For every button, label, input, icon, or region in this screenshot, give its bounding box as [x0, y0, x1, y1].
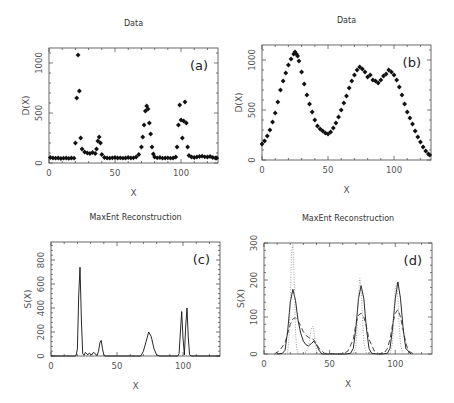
- x-tick-label: 50: [324, 359, 335, 369]
- series-reconstruction: [51, 267, 220, 356]
- y-tick-label: 100: [249, 309, 259, 325]
- y-axis-label: S(X): [23, 290, 33, 309]
- y-tick-label: 0: [36, 353, 46, 358]
- x-tick-label: 50: [110, 168, 121, 178]
- y-tick-label: 400: [36, 300, 46, 316]
- panel-c: MaxEnt Reconstruction0501000200400600800…: [23, 213, 220, 391]
- panel-d: MaxEnt Reconstruction0501000100200300XS(…: [236, 214, 432, 389]
- x-axis-label: X: [132, 381, 138, 391]
- y-tick-label: 1000: [247, 49, 257, 71]
- chart-title: Data: [337, 16, 356, 25]
- y-tick-label: 500: [247, 102, 257, 118]
- y-axis-label: D(X): [21, 95, 31, 115]
- figure: Data05010005001000XD(X)(a)Data0501000500…: [0, 0, 454, 403]
- y-tick-label: 800: [36, 252, 46, 268]
- x-tick-label: 0: [48, 361, 53, 371]
- y-tick-label: 0: [249, 351, 259, 356]
- panel-a: Data05010005001000XD(X)(a): [21, 19, 219, 198]
- y-tick-label: 200: [36, 324, 46, 340]
- x-tick-label: 100: [175, 361, 191, 371]
- panel-label: (d): [404, 253, 422, 268]
- panel-b: Data05010005001000XD(X)(b): [234, 16, 432, 195]
- x-axis-label: X: [343, 185, 349, 195]
- y-tick-label: 1000: [34, 52, 44, 74]
- y-tick-label: 0: [247, 157, 257, 162]
- x-tick-label: 0: [261, 359, 266, 369]
- series-solid: [277, 282, 411, 354]
- y-axis-label: D(X): [234, 92, 244, 112]
- chart-title: MaxEnt Reconstruction: [89, 213, 181, 222]
- chart-title: Data: [124, 19, 143, 28]
- chart-title: MaxEnt Reconstruction: [302, 214, 394, 223]
- x-tick-label: 100: [173, 168, 189, 178]
- y-tick-label: 200: [249, 272, 259, 288]
- x-axis-label: X: [130, 188, 136, 198]
- x-tick-label: 50: [323, 165, 334, 175]
- x-tick-label: 0: [46, 168, 51, 178]
- x-tick-label: 50: [112, 361, 123, 371]
- x-tick-label: 100: [387, 359, 403, 369]
- panel-label: (a): [190, 58, 208, 73]
- y-tick-label: 500: [34, 105, 44, 121]
- y-axis-label: S(X): [236, 289, 246, 308]
- panel-label: (b): [403, 55, 421, 70]
- panel-label: (c): [193, 252, 210, 267]
- y-tick-label: 600: [36, 276, 46, 292]
- x-axis-label: X: [345, 379, 351, 389]
- y-tick-label: 0: [34, 160, 44, 165]
- x-tick-label: 100: [386, 165, 402, 175]
- x-tick-label: 0: [259, 165, 264, 175]
- y-tick-label: 300: [249, 235, 259, 251]
- series-dotted: [285, 245, 403, 354]
